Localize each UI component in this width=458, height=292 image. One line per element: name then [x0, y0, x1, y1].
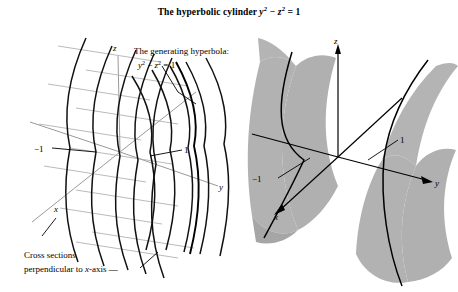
right-figure: z y x −1 1 [230, 0, 458, 292]
right-intercept-one: 1 [400, 135, 405, 145]
cross-sections-caption-line1: Cross sections [24, 250, 76, 260]
left-y-axis-label: y [218, 182, 223, 192]
left-x-axis-label: x [53, 204, 58, 214]
caption-leader-line [140, 252, 158, 268]
right-x-axis-label: x [273, 212, 278, 222]
right-z-axis-label: z [333, 36, 338, 46]
left-x-axis-back [120, 92, 196, 152]
left-figure: z y x −1 1 The generating hyperbola: y2 … [0, 0, 230, 292]
caption-leader-line-upper [42, 218, 56, 236]
right-y-axis-label: y [434, 178, 439, 188]
left-intercept-one: 1 [184, 145, 189, 155]
cross-section-curve [92, 46, 112, 266]
figure-root: The hyperbolic cylinder y2 − z2 = 1 [0, 0, 458, 292]
right-intercept-neg-one: −1 [252, 174, 262, 184]
cross-sections-caption-line2: perpendicular to x-axis — [24, 264, 119, 274]
cross-section-curve [206, 58, 229, 256]
left-one-leader [150, 150, 182, 156]
left-x-axis [32, 152, 120, 222]
generating-hyperbola-annotation-line1: The generating hyperbola: [134, 46, 229, 56]
generating-hyperbola-annotation-line2: y2 − z2 = 1 [137, 60, 175, 70]
left-intercept-neg-one: −1 [34, 144, 44, 154]
right-branch-cross-sections [132, 58, 229, 256]
generating-hyperbola-left-panel [176, 62, 199, 254]
left-z-axis-label: z [112, 43, 117, 53]
